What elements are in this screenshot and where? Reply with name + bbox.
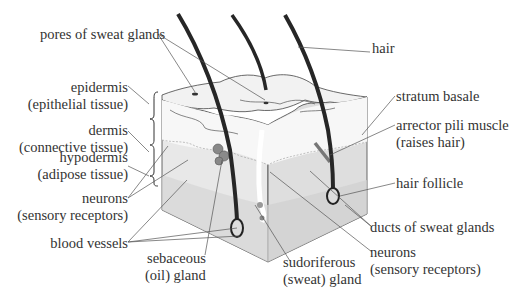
pore xyxy=(192,93,198,96)
label-arrector-pili-sub: (raises hair) xyxy=(396,134,465,151)
label-neurons-left: neurons xyxy=(10,190,128,207)
label-neurons-right: neurons xyxy=(370,244,416,261)
label-dermis: dermis xyxy=(10,122,128,139)
label-neurons-right-sub: (sensory receptors) xyxy=(370,261,481,278)
label-epidermis-sub: (epithelial tissue) xyxy=(0,96,128,113)
layer-braces xyxy=(150,92,158,186)
skin-diagram: pores of sweat glands hair epidermis (ep… xyxy=(0,0,523,299)
label-hair-follicle: hair follicle xyxy=(396,175,463,192)
label-arrector-pili-muscle: arrector pili muscle xyxy=(396,117,509,134)
label-stratum-basale: stratum basale xyxy=(396,88,479,105)
label-sudoriferous-gland: sudoriferous xyxy=(283,254,356,271)
label-sebaceous-gland: sebaceous xyxy=(147,250,206,267)
label-neurons-left-sub: (sensory receptors) xyxy=(0,207,128,224)
label-sudoriferous-gland-sub: (sweat) gland xyxy=(283,271,362,288)
label-sebaceous-gland-sub: (oil) gland xyxy=(145,267,206,284)
label-hypodermis: hypodermis xyxy=(10,149,128,166)
label-hair: hair xyxy=(372,40,395,57)
label-blood-vessels: blood vessels xyxy=(10,235,128,252)
label-pores-of-sweat-glands: pores of sweat glands xyxy=(40,26,157,43)
label-hypodermis-sub: (adipose tissue) xyxy=(0,166,128,183)
label-epidermis: epidermis xyxy=(10,79,128,96)
pore xyxy=(264,102,269,104)
label-ducts-of-sweat-glands: ducts of sweat glands xyxy=(370,219,494,236)
